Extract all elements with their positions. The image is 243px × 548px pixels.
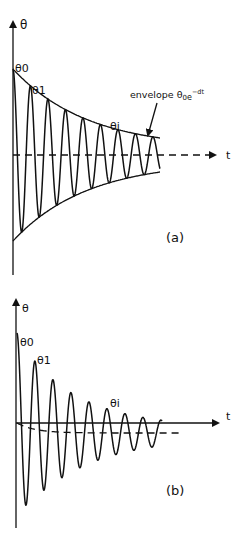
panel-label-b: (b) xyxy=(166,483,184,498)
envelope-annotation: envelope θ0e−dt xyxy=(130,88,204,102)
peak-label-theta0-a: θ0 xyxy=(15,62,29,75)
panel-b: θ t θ0 θ1 θi (b) xyxy=(16,300,231,528)
theta-axis-label-a: θ xyxy=(20,18,27,32)
peak-label-thetai-a: θi xyxy=(110,120,120,133)
peak-label-theta1-a: θ1 xyxy=(32,84,46,97)
theta-axis-label-b: θ xyxy=(22,302,29,315)
panel-label-a: (a) xyxy=(166,230,184,245)
envelope-lower-a xyxy=(13,172,160,241)
time-axis-label-b: t xyxy=(226,410,231,423)
peak-label-theta0-b: θ0 xyxy=(20,336,34,349)
damped-oscillation-figure: θ t θ0 θ1 θi envelope θ0e−dt (a) θ t θ0 … xyxy=(0,0,243,548)
envelope-upper-a xyxy=(13,69,160,138)
peak-label-thetai-b: θi xyxy=(110,397,120,410)
envelope-pointer-arrow xyxy=(148,103,157,135)
peak-label-theta1-b: θ1 xyxy=(37,354,51,367)
panel-a: θ t θ0 θ1 θi envelope θ0e−dt (a) xyxy=(13,18,231,275)
time-axis-label-a: t xyxy=(226,149,231,162)
